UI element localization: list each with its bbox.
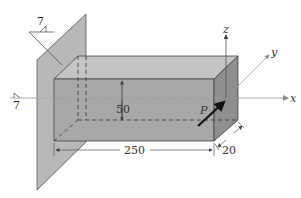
y-axis-label: y: [270, 46, 278, 59]
weld-symbol-top-size: 7: [37, 15, 44, 28]
bar-front-face: [54, 79, 214, 141]
height-dimension-label: 50: [116, 103, 130, 116]
bar-top-face: [54, 56, 238, 79]
width-dimension-label: 20: [222, 144, 236, 157]
load-label: P: [199, 104, 208, 117]
x-axis-label: x: [290, 92, 297, 105]
weld-symbol-left-size: 7: [13, 99, 20, 112]
beam-weld-diagram: z y x P 50 250 20 7 7: [0, 0, 301, 198]
z-axis-label: z: [222, 23, 229, 36]
weld-symbol-left: [14, 93, 20, 98]
length-dimension-label: 250: [124, 144, 145, 157]
